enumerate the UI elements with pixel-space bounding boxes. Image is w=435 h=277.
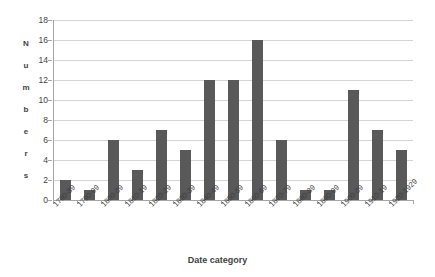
- y-tick-label: 8: [4, 116, 48, 125]
- y-tick-label: 12: [4, 76, 48, 85]
- y-tick-mark: [48, 80, 52, 81]
- y-tick-mark: [48, 20, 52, 21]
- bar-chart: Numbers 024681012141618 1780-891790-9918…: [0, 0, 435, 277]
- y-tick-mark: [48, 100, 52, 101]
- y-tick-label: 14: [4, 56, 48, 65]
- x-axis-title: Date category: [0, 255, 435, 265]
- y-tick-label: 10: [4, 96, 48, 105]
- x-tick-mark: [413, 200, 414, 204]
- y-tick-label: 6: [4, 136, 48, 145]
- bar[interactable]: [204, 80, 215, 200]
- y-tick-label: 4: [4, 156, 48, 165]
- bar[interactable]: [252, 40, 263, 200]
- y-tick-mark: [48, 160, 52, 161]
- y-tick-label: 2: [4, 176, 48, 185]
- plot-wrapper: [53, 20, 413, 200]
- y-tick-label: 0: [4, 196, 48, 205]
- x-axis-tick-labels: 1780-891790-991800-091810-191820-291830-…: [53, 203, 413, 249]
- y-tick-mark: [48, 180, 52, 181]
- bar-series: [53, 20, 413, 200]
- y-axis-ticks: 024681012141618: [0, 20, 48, 200]
- y-tick-mark: [48, 140, 52, 141]
- y-tick-mark: [48, 60, 52, 61]
- y-tick-label: 16: [4, 36, 48, 45]
- y-tick-label: 18: [4, 16, 48, 25]
- y-tick-mark: [48, 40, 52, 41]
- y-tick-mark: [48, 120, 52, 121]
- bar[interactable]: [228, 80, 239, 200]
